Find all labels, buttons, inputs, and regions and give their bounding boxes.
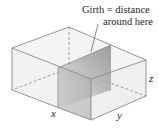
girth-label-line2: around here: [103, 16, 153, 27]
girth-label-line1: Girth = distance: [82, 4, 150, 15]
y-label: y: [117, 110, 122, 121]
z-label: z: [149, 73, 153, 84]
x-label: x: [51, 108, 56, 119]
